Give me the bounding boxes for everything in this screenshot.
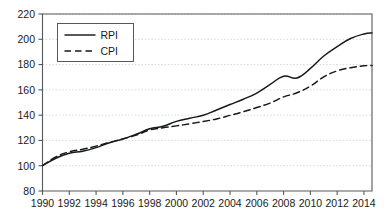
x-tick-label-2006: 2006 [245, 197, 269, 209]
x-tick-label-1992: 1992 [58, 197, 82, 209]
x-tick-label-2014: 2014 [352, 197, 376, 209]
price-index-chart: 80100120140160180200220 1990199219941996… [0, 0, 387, 221]
x-tick-label-1990: 1990 [31, 197, 55, 209]
legend-label-cpi: CPI [101, 45, 119, 57]
x-tick-label-2012: 2012 [325, 197, 349, 209]
x-tick-label-1998: 1998 [138, 197, 162, 209]
y-tick-labels: 80100120140160180200220 [17, 8, 35, 197]
y-tick-label-80: 80 [23, 185, 35, 197]
y-tick-label-180: 180 [17, 58, 35, 70]
legend-label-rpi: RPI [101, 29, 119, 41]
y-tick-label-200: 200 [17, 33, 35, 45]
x-tick-label-1994: 1994 [84, 197, 108, 209]
x-tick-label-1996: 1996 [111, 197, 135, 209]
x-tick-label-2010: 2010 [299, 197, 323, 209]
chart-legend: RPICPI [58, 24, 134, 62]
x-axis [43, 191, 364, 195]
x-tick-label-2002: 2002 [192, 197, 216, 209]
y-tick-label-140: 140 [17, 109, 35, 121]
x-tick-label-2008: 2008 [272, 197, 296, 209]
y-tick-label-160: 160 [17, 84, 35, 96]
x-tick-label-2000: 2000 [165, 197, 189, 209]
y-tick-label-100: 100 [17, 160, 35, 172]
y-axis [39, 14, 43, 191]
chart-canvas: 80100120140160180200220 1990199219941996… [0, 0, 387, 221]
series-line-cpi [43, 66, 373, 166]
y-tick-label-120: 120 [17, 134, 35, 146]
x-tick-labels: 1990199219941996199820002002200420062008… [31, 197, 376, 209]
legend-box [58, 24, 134, 62]
y-tick-label-220: 220 [17, 8, 35, 20]
x-tick-label-2004: 2004 [218, 197, 242, 209]
